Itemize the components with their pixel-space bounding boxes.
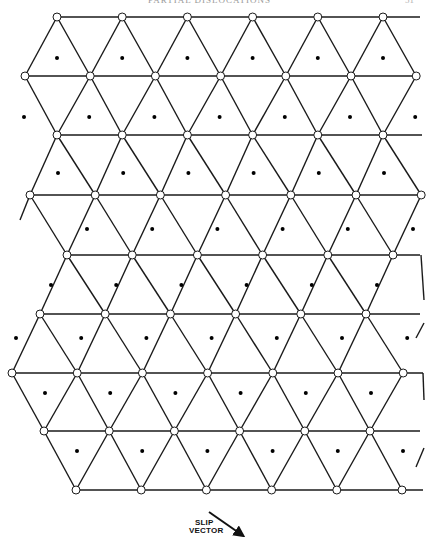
lattice-atom-node — [314, 131, 322, 139]
lattice-atom-node — [118, 131, 126, 139]
lattice-atom-node — [91, 191, 99, 199]
diagonal-lattice-line — [318, 17, 351, 76]
lattice-atom-node — [334, 369, 342, 377]
diagonal-lattice-line — [76, 431, 109, 490]
interstitial-atom-dot — [121, 171, 125, 175]
lattice-atom-node — [301, 427, 309, 435]
lattice-nodes — [8, 13, 425, 494]
diagonal-lattice-line — [197, 255, 235, 314]
interstitial-atom-dot — [210, 336, 214, 340]
diagonal-lattice-line — [286, 76, 318, 135]
diagonal-lattice-line — [337, 431, 370, 490]
diagonal-lattice-line — [155, 17, 187, 76]
diagonal-lattice-line — [273, 314, 301, 373]
lattice-atom-node — [202, 486, 210, 494]
lattice-atom-node — [105, 427, 113, 435]
diagonal-lattice-line — [187, 76, 220, 135]
edge-line-stub — [423, 373, 424, 400]
slip-vector-legend: SLIP VECTOR — [180, 508, 260, 537]
diagonal-lattice-line — [351, 76, 383, 135]
lattice-atom-node — [101, 310, 109, 318]
diagonal-lattice-line — [366, 255, 393, 314]
diagonal-lattice-line — [240, 431, 272, 490]
diagonal-lattice-line — [366, 314, 403, 373]
interstitial-atom-dot — [43, 391, 47, 395]
diagonal-lattice-line — [253, 76, 286, 135]
lattice-atom-node — [26, 191, 34, 199]
interstitial-atom-dot — [251, 56, 255, 60]
interstitial-atom-dot — [186, 171, 190, 175]
diagonal-lattice-line — [328, 195, 356, 255]
diagonal-lattice-line — [286, 17, 318, 76]
interstitial-atom-dot — [108, 391, 112, 395]
diagonal-lattice-line — [12, 373, 44, 431]
diagonal-lattice-line — [197, 195, 225, 255]
diagonal-lattice-line — [155, 76, 187, 135]
diagonal-lattice-line — [132, 195, 160, 255]
lattice-atom-node — [72, 486, 80, 494]
lattice-atom-node — [118, 13, 126, 21]
lattice-atom-node — [40, 427, 48, 435]
interstitial-atom-dot — [275, 336, 279, 340]
diagonal-lattice-line — [174, 431, 206, 490]
lattice-atom-node — [268, 486, 276, 494]
diagonal-lattice-line — [206, 431, 239, 490]
interstitial-atom-dot — [239, 391, 243, 395]
diagonal-lattice-line — [122, 135, 160, 195]
lattice-atom-node — [21, 72, 29, 80]
diagonal-lattice-line — [221, 17, 253, 76]
lattice-atom-node — [222, 191, 230, 199]
lattice-atom-node — [366, 427, 374, 435]
diagonal-lattice-line — [338, 314, 366, 373]
diagonal-lattice-line — [273, 373, 305, 431]
lattice-atom-node — [36, 310, 44, 318]
interstitial-atom-dot — [14, 336, 18, 340]
lattice-atom-node — [156, 191, 164, 199]
diagonal-lattice-line — [208, 314, 236, 373]
edge-line-stub — [416, 323, 424, 338]
diagonal-lattice-line — [90, 76, 122, 135]
lattice-lines — [12, 17, 424, 490]
diagonal-lattice-line — [263, 195, 291, 255]
vector-label: VECTOR — [189, 527, 223, 535]
diagonal-lattice-line — [370, 431, 402, 490]
diagonal-lattice-line — [318, 76, 351, 135]
diagonal-lattice-line — [208, 373, 240, 431]
diagonal-lattice-line — [67, 255, 105, 314]
diagonal-lattice-line — [253, 135, 291, 195]
diagonal-lattice-line — [25, 17, 57, 76]
lattice-atom-node — [259, 251, 267, 259]
diagonal-lattice-line — [226, 195, 263, 255]
lattice-atom-node — [282, 72, 290, 80]
diagonal-lattice-line — [57, 17, 90, 76]
interstitial-atom-dot — [245, 283, 249, 287]
interstitial-atom-dot — [79, 336, 83, 340]
interstitial-atom-dot — [87, 115, 91, 119]
lattice-atom-node — [314, 13, 322, 21]
interstitial-atom-dot — [304, 391, 308, 395]
lattice-atom-node — [249, 13, 257, 21]
diagonal-lattice-line — [25, 76, 57, 135]
lattice-atom-node — [8, 369, 16, 377]
lattice-atom-node — [389, 251, 397, 259]
diagonal-lattice-line — [301, 314, 338, 373]
interstitial-atom-dot — [271, 449, 275, 453]
lattice-atom-node — [128, 251, 136, 259]
diagonal-lattice-line — [305, 373, 338, 431]
interstitial-atom-dot — [405, 336, 409, 340]
diagonal-lattice-line — [170, 314, 207, 373]
interstitial-atom-dot — [85, 227, 89, 231]
interstitial-atom-dot — [75, 449, 79, 453]
interstitial-atom-dot — [173, 391, 177, 395]
interstitial-atom-dot — [252, 171, 256, 175]
diagonal-lattice-line — [240, 373, 273, 431]
lattice-atom-node — [138, 369, 146, 377]
lattice-atom-node — [417, 191, 425, 199]
diagonal-lattice-line — [77, 373, 109, 431]
lattice-atom-node — [399, 369, 407, 377]
edge-line-stub — [416, 448, 424, 467]
diagonal-lattice-line — [187, 135, 225, 195]
interstitial-atom-dot — [381, 56, 385, 60]
diagonal-lattice-line — [318, 135, 356, 195]
diagonal-lattice-line — [160, 195, 197, 255]
